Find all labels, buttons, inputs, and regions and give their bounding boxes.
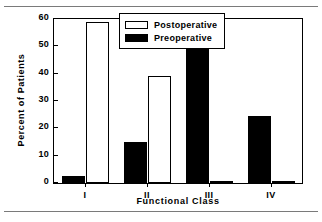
bar-postoperative [272, 181, 295, 183]
x-tick-mark [85, 183, 86, 187]
top-divider-rule [4, 6, 318, 7]
y-tick-label: 20 [28, 121, 49, 131]
legend-item-preoperative: Preoperative [125, 31, 217, 44]
bar-postoperative [86, 22, 109, 183]
bar-preoperative [248, 116, 271, 183]
y-axis-title: Percent of Patients [16, 25, 26, 175]
y-tick-mark [54, 182, 58, 183]
y-tick-mark [54, 18, 58, 19]
y-tick-label: 60 [28, 12, 49, 22]
bar-preoperative [124, 142, 147, 183]
figure: Percent of Patients 0102030405060 IIIIII… [0, 0, 322, 222]
y-tick-mark [54, 73, 58, 74]
bar-postoperative [148, 76, 171, 183]
bottom-divider-rule [4, 211, 318, 212]
bar-preoperative [62, 176, 85, 183]
y-tick-label: 0 [28, 176, 49, 186]
y-tick-mark [54, 45, 58, 46]
x-tick-mark [147, 183, 148, 187]
legend-item-postoperative: Postoperative [125, 18, 217, 31]
legend-label-postoperative: Postoperative [154, 20, 217, 30]
y-tick-mark [54, 155, 58, 156]
x-tick-mark [271, 183, 272, 187]
legend-label-preoperative: Preoperative [154, 33, 212, 43]
legend-swatch-preoperative-icon [125, 34, 148, 42]
y-tick-label: 40 [28, 67, 49, 77]
chart-legend: Postoperative Preoperative [119, 13, 225, 49]
x-tick-mark [209, 183, 210, 187]
x-axis-title: Functional Class [53, 196, 303, 206]
y-tick-label: 30 [28, 94, 49, 104]
y-tick-label: 50 [28, 39, 49, 49]
y-tick-mark [54, 100, 58, 101]
bar-postoperative [210, 181, 233, 183]
y-tick-label: 10 [28, 149, 49, 159]
y-tick-mark [54, 127, 58, 128]
legend-swatch-postoperative-icon [125, 21, 148, 29]
